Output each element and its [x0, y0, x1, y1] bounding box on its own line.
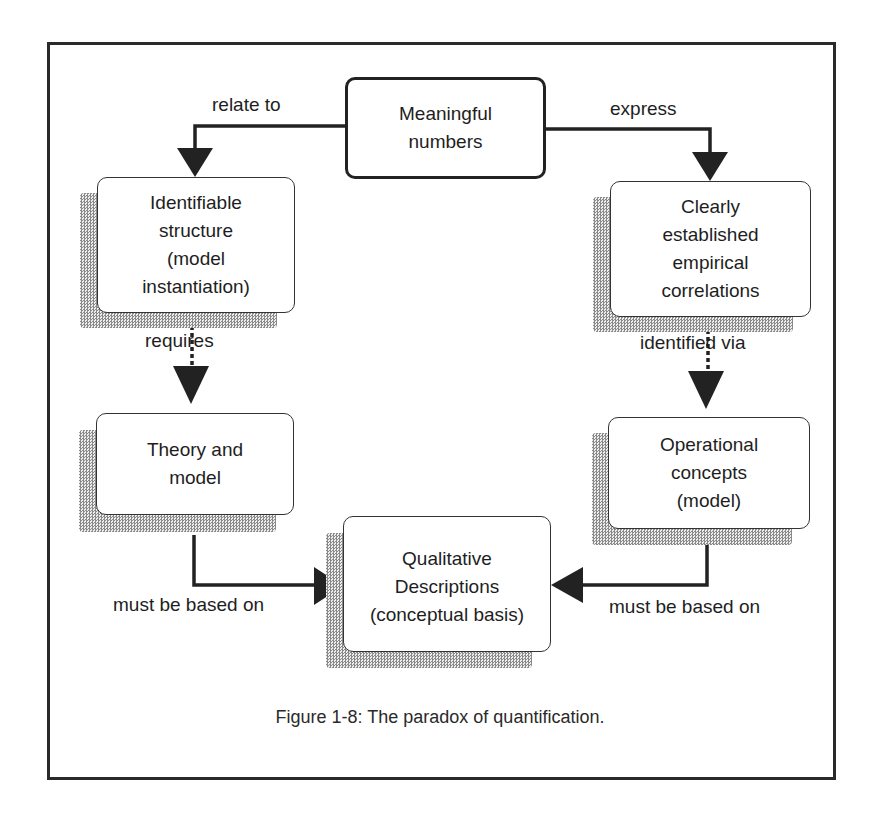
node-text: Identifiable structure (model instantiat… — [142, 189, 250, 301]
edge-label-express: express — [610, 98, 677, 120]
node-meaningful-numbers: Meaningful numbers — [345, 77, 546, 179]
arrow-left-icon — [551, 567, 583, 603]
arrow-down-icon — [692, 152, 728, 181]
node-text: Qualitative Descriptions (conceptual bas… — [370, 545, 524, 629]
node-clearly-established: Clearly established empirical correlatio… — [610, 181, 811, 317]
arrow-down-icon — [177, 148, 213, 177]
arrow-down-icon — [688, 371, 724, 409]
figure-caption: Figure 1-8: The paradox of quantificatio… — [0, 707, 880, 728]
edge-label-requires: requires — [145, 330, 214, 352]
edge-label-identified-via: identified via — [640, 332, 746, 354]
node-identifiable-structure: Identifiable structure (model instantiat… — [97, 177, 295, 313]
node-operational-concepts: Operational concepts (model) — [608, 417, 810, 529]
edge-label-based-on-left: must be based on — [113, 594, 264, 616]
arrow-down-icon — [173, 366, 209, 404]
node-text: Operational concepts (model) — [660, 431, 758, 515]
edge-label-based-on-right: must be based on — [609, 596, 760, 618]
node-theory-and-model: Theory and model — [96, 413, 294, 515]
node-qualitative-descriptions: Qualitative Descriptions (conceptual bas… — [343, 516, 551, 652]
node-text: Theory and model — [147, 436, 243, 492]
edge-label-relate-to: relate to — [212, 94, 281, 116]
node-text: Clearly established empirical correlatio… — [661, 193, 759, 305]
node-text: Meaningful numbers — [399, 100, 492, 156]
